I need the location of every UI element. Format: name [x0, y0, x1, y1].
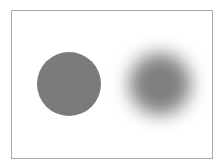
- blurred-circle: [129, 53, 191, 115]
- diagram-frame: [11, 10, 213, 159]
- sharp-circle: [37, 52, 101, 116]
- diagram-canvas: [0, 0, 223, 168]
